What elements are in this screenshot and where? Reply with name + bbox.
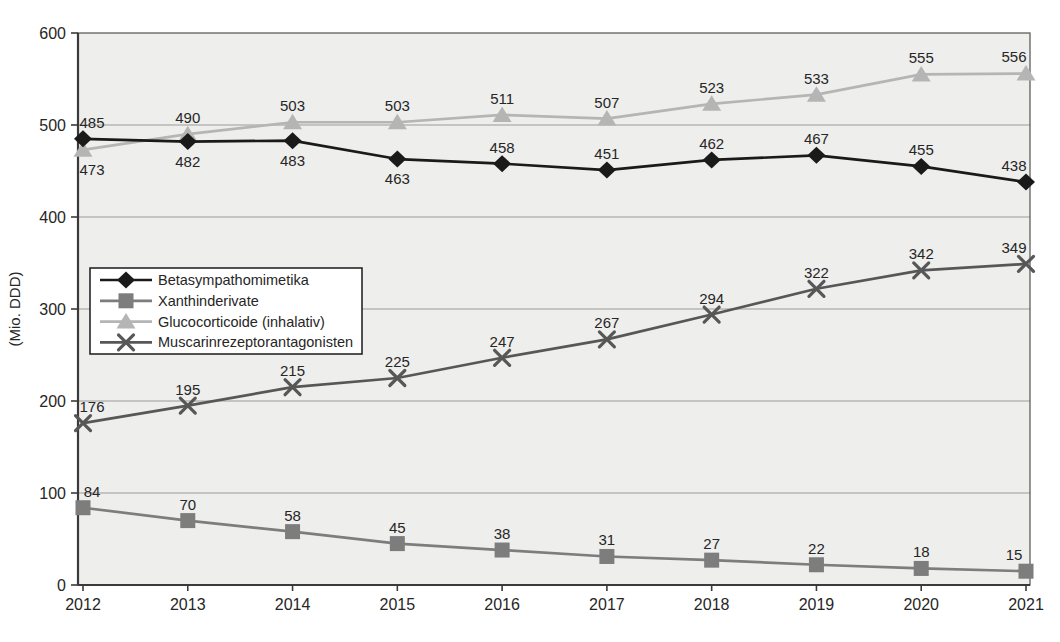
y-tick-label: 100 xyxy=(39,485,66,502)
x-tick-label: 2020 xyxy=(903,596,939,613)
data-label: 463 xyxy=(385,170,410,187)
y-tick-label: 400 xyxy=(39,209,66,226)
square-marker-xanthinderivate xyxy=(1019,564,1034,579)
data-label: 533 xyxy=(804,70,829,87)
data-label: 451 xyxy=(594,145,619,162)
x-tick-label: 2021 xyxy=(1008,596,1044,613)
data-label: 70 xyxy=(179,496,196,513)
data-label: 555 xyxy=(909,49,934,66)
data-label: 473 xyxy=(79,161,104,178)
square-legend-marker xyxy=(119,293,134,308)
data-label: 556 xyxy=(1001,48,1026,65)
y-tick-label: 200 xyxy=(39,393,66,410)
square-marker-xanthinderivate xyxy=(180,513,195,528)
data-label: 455 xyxy=(909,141,934,158)
data-label: 342 xyxy=(909,245,934,262)
square-marker-xanthinderivate xyxy=(495,543,510,558)
data-label: 18 xyxy=(913,543,930,560)
y-axis-title: (Mio. DDD) xyxy=(6,272,23,347)
square-marker-xanthinderivate xyxy=(390,536,405,551)
data-label: 215 xyxy=(280,362,305,379)
data-label: 58 xyxy=(284,507,301,524)
data-label: 462 xyxy=(699,135,724,152)
data-label: 22 xyxy=(808,540,825,557)
data-label: 503 xyxy=(280,97,305,114)
x-tick-label: 2012 xyxy=(65,596,101,613)
data-label: 467 xyxy=(804,130,829,147)
data-label: 267 xyxy=(594,314,619,331)
chart-page: 0100200300400500600201220132014201520162… xyxy=(0,0,1060,642)
data-label: 483 xyxy=(280,152,305,169)
line-chart: 0100200300400500600201220132014201520162… xyxy=(0,0,1060,642)
legend-label: Glucocorticoide (inhalativ) xyxy=(158,314,325,330)
data-label: 15 xyxy=(1006,546,1023,563)
data-label: 490 xyxy=(175,109,200,126)
data-label: 195 xyxy=(175,381,200,398)
y-tick-label: 600 xyxy=(39,25,66,42)
data-label: 176 xyxy=(79,398,104,415)
data-label: 349 xyxy=(1001,239,1026,256)
y-tick-label: 300 xyxy=(39,301,66,318)
data-label: 438 xyxy=(1001,157,1026,174)
x-tick-label: 2017 xyxy=(589,596,625,613)
data-label: 38 xyxy=(494,525,511,542)
square-marker-xanthinderivate xyxy=(704,553,719,568)
legend-label: Betasympathomimetika xyxy=(158,272,310,288)
y-tick-label: 500 xyxy=(39,117,66,134)
square-marker-xanthinderivate xyxy=(285,524,300,539)
square-marker-xanthinderivate xyxy=(599,549,614,564)
data-label: 482 xyxy=(175,153,200,170)
y-axis-ticks: 0100200300400500600 xyxy=(39,25,78,594)
data-label: 523 xyxy=(699,79,724,96)
data-label: 503 xyxy=(385,97,410,114)
x-tick-label: 2015 xyxy=(380,596,416,613)
data-label: 458 xyxy=(490,139,515,156)
data-label: 511 xyxy=(490,90,514,107)
data-label: 247 xyxy=(490,333,515,350)
x-axis-ticks: 2012201320142015201620172018201920202021 xyxy=(65,585,1044,613)
data-label: 225 xyxy=(385,353,410,370)
x-tick-label: 2016 xyxy=(484,596,520,613)
square-marker-xanthinderivate xyxy=(809,557,824,572)
legend: BetasympathomimetikaXanthinderivateGluco… xyxy=(90,268,362,354)
x-tick-label: 2014 xyxy=(275,596,311,613)
legend-label: Muscarinrezeptorantagonisten xyxy=(158,334,353,350)
square-marker-xanthinderivate xyxy=(914,561,929,576)
data-label: 507 xyxy=(594,94,619,111)
x-tick-label: 2019 xyxy=(799,596,835,613)
data-label: 45 xyxy=(389,519,406,536)
y-tick-label: 0 xyxy=(57,577,66,594)
x-tick-label: 2013 xyxy=(170,596,206,613)
data-label: 27 xyxy=(703,535,720,552)
data-label: 84 xyxy=(84,483,101,500)
data-label: 31 xyxy=(599,531,616,548)
data-label: 485 xyxy=(79,114,104,131)
data-label: 294 xyxy=(699,290,724,307)
legend-item-xanthinderivate: Xanthinderivate xyxy=(100,293,259,309)
x-tick-label: 2018 xyxy=(694,596,730,613)
data-label: 322 xyxy=(804,264,829,281)
square-marker-xanthinderivate xyxy=(76,500,91,515)
legend-label: Xanthinderivate xyxy=(158,293,259,309)
